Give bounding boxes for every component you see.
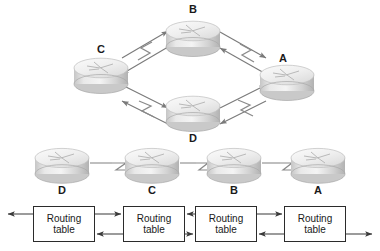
link-b-a [220, 32, 266, 74]
routing-table-box-d: Routing table [33, 206, 95, 242]
chain-link-d-c [90, 163, 131, 170]
router-d-diamond [166, 96, 220, 131]
chain-label-b: B [228, 185, 240, 196]
chain-label-a: A [312, 185, 324, 196]
routing-table-box-a: Routing table [284, 206, 346, 242]
routing-table-box-b: Routing table [195, 206, 257, 242]
routing-table-label: Routing table [137, 213, 171, 235]
topology-label-a: A [277, 53, 289, 64]
network-diagram: B C A D D C B A Routing table Routing ta… [0, 0, 380, 251]
routing-table-label: Routing table [209, 213, 243, 235]
topology-label-c: C [95, 44, 107, 55]
router-b [166, 21, 220, 56]
chain-label-c: C [146, 185, 158, 196]
chain-router-c [125, 148, 179, 183]
link-c-b [122, 31, 168, 74]
routing-table-label: Routing table [298, 213, 332, 235]
chain-label-d: D [56, 185, 68, 196]
topology-label-d: D [187, 133, 199, 144]
chain-links [90, 163, 298, 170]
chain-router-b [207, 148, 261, 183]
link-a-d [220, 85, 266, 124]
routing-table-label: Routing table [47, 213, 81, 235]
router-a [260, 65, 314, 100]
chain-router-a [291, 148, 345, 183]
chain-router-d [35, 148, 89, 183]
topology-label-b: B [187, 4, 199, 15]
link-d-c [122, 85, 168, 124]
router-c [74, 58, 128, 93]
routing-table-box-c: Routing table [123, 206, 185, 242]
